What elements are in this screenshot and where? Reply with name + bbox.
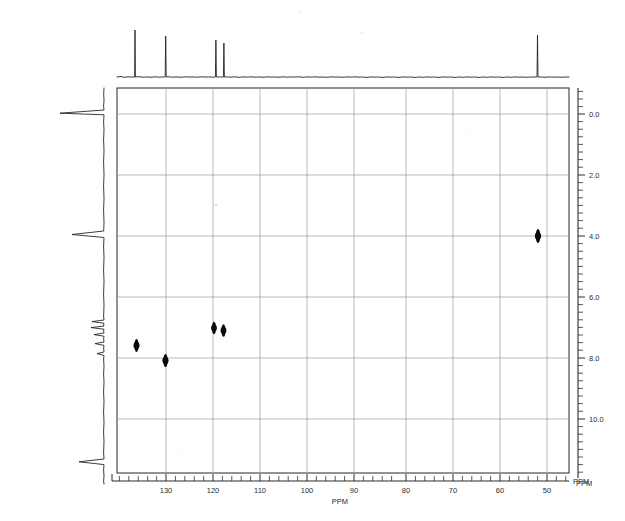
y-axis: 0.0 2.0 4.0 6.0 8.0 10.0 PPM bbox=[576, 88, 604, 488]
y-tick-label: 4.0 bbox=[589, 232, 599, 241]
x-axis: 130 120 110 100 90 80 70 60 50 PPM bbox=[112, 474, 589, 506]
cross-peak bbox=[134, 339, 140, 352]
scan-noise bbox=[95, 7, 520, 450]
y-axis-unit-label: PPM bbox=[576, 479, 592, 488]
y-tick-label: 10.0 bbox=[589, 415, 604, 424]
nmr-spectrum-figure: 130 120 110 100 90 80 70 60 50 PPM bbox=[0, 0, 625, 521]
vertical-gridlines bbox=[166, 88, 547, 473]
y-tick-label: 6.0 bbox=[589, 293, 599, 302]
x-tick-label: 80 bbox=[402, 486, 410, 495]
x-tick-label: 110 bbox=[254, 486, 266, 495]
y-axis-minor-ticks bbox=[578, 91, 583, 472]
x-axis-minor-ticks bbox=[119, 476, 565, 481]
x-tick-label: 50 bbox=[543, 486, 551, 495]
carbon-1d-projection bbox=[117, 30, 569, 77]
cross-peak bbox=[162, 354, 168, 367]
x-axis-caption: PPM bbox=[332, 497, 348, 506]
cross-peak-layer bbox=[134, 229, 542, 367]
cross-peak bbox=[211, 322, 217, 334]
spectrum-canvas: 130 120 110 100 90 80 70 60 50 PPM bbox=[0, 0, 625, 521]
proton-1d-projection bbox=[60, 88, 104, 484]
x-tick-label: 100 bbox=[301, 486, 314, 495]
cross-peak bbox=[535, 229, 541, 243]
x-tick-label: 90 bbox=[350, 486, 358, 495]
x-tick-label: 130 bbox=[160, 486, 173, 495]
y-tick-label: 8.0 bbox=[589, 354, 599, 363]
y-tick-label: 0.0 bbox=[589, 110, 599, 119]
x-tick-label: 120 bbox=[207, 486, 220, 495]
x-tick-label: 70 bbox=[449, 486, 457, 495]
plot-frame bbox=[117, 88, 569, 473]
x-axis-major-ticks: 130 120 110 100 90 80 70 60 50 bbox=[160, 474, 551, 495]
horizontal-gridlines bbox=[117, 114, 569, 419]
x-tick-label: 60 bbox=[496, 486, 504, 495]
cross-peak bbox=[221, 324, 227, 337]
y-tick-label: 2.0 bbox=[589, 171, 599, 180]
